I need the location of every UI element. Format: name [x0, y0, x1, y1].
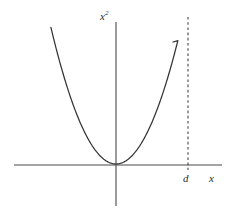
parabola-curve — [51, 27, 178, 164]
d-marker-label: d — [183, 173, 189, 184]
x-axis-label: x — [209, 173, 214, 184]
parabola-plot — [0, 0, 236, 215]
figure-canvas: x2 d x — [0, 0, 236, 215]
y-axis-label: x2 — [100, 11, 108, 22]
y-axis-label-exponent: 2 — [105, 9, 109, 17]
